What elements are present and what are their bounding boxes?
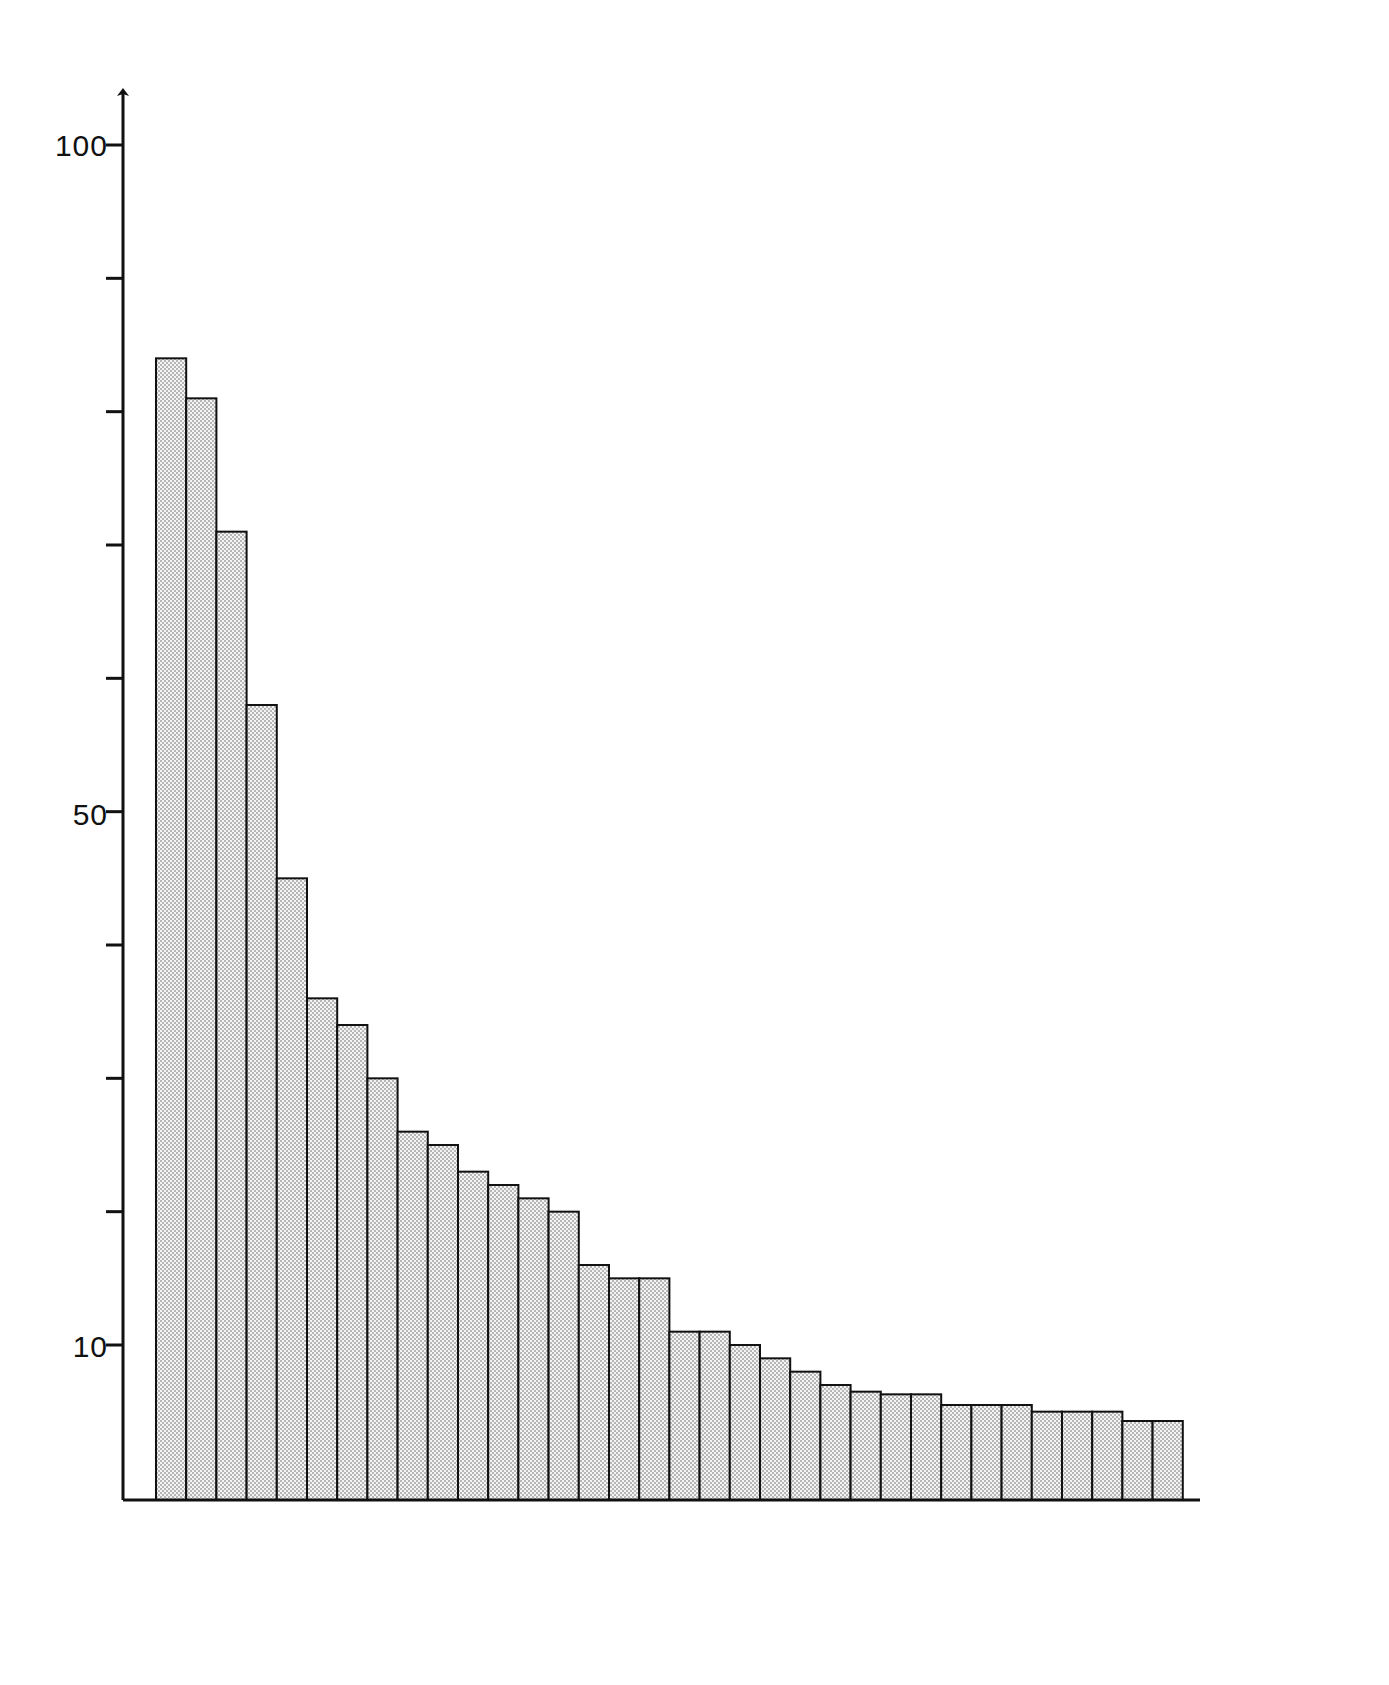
bar: [730, 1345, 760, 1500]
chart-figure: 100 50 10: [0, 0, 1389, 1685]
bar: [579, 1265, 609, 1500]
bar: [1062, 1412, 1092, 1500]
bar: [488, 1185, 518, 1500]
bar: [820, 1385, 850, 1500]
bar: [1092, 1412, 1122, 1500]
bar: [911, 1394, 941, 1500]
plot-area: [156, 358, 1183, 1500]
bar: [1153, 1421, 1183, 1500]
bar: [428, 1145, 458, 1500]
y-tick-label-10: 10: [73, 1330, 108, 1363]
bar: [216, 532, 246, 1500]
bar: [609, 1278, 639, 1500]
bar: [1032, 1412, 1062, 1500]
bar: [367, 1078, 397, 1500]
bars-group: [156, 358, 1183, 1500]
bar: [458, 1172, 488, 1500]
bar: [247, 705, 277, 1500]
bar: [700, 1332, 730, 1500]
bar: [186, 398, 216, 1500]
y-axis: [106, 92, 123, 1500]
y-tick-marks: [106, 145, 123, 1345]
bar: [1002, 1405, 1032, 1500]
bar: [277, 878, 307, 1500]
bar: [881, 1394, 911, 1500]
bar: [518, 1198, 548, 1500]
bar: [760, 1358, 790, 1500]
y-tick-label-50: 50: [73, 798, 108, 831]
bar: [941, 1405, 971, 1500]
bar: [639, 1278, 669, 1500]
bar: [337, 1025, 367, 1500]
bar-chart-svg: 100 50 10: [0, 0, 1389, 1685]
bar: [669, 1332, 699, 1500]
y-axis-tick-labels: 100 50 10: [55, 129, 108, 1363]
bar: [398, 1132, 428, 1500]
bar: [851, 1392, 881, 1500]
bar: [790, 1372, 820, 1500]
bar: [307, 998, 337, 1500]
bar: [1122, 1421, 1152, 1500]
bar: [971, 1405, 1001, 1500]
bar: [549, 1212, 579, 1500]
y-tick-label-100: 100: [55, 129, 108, 162]
bar: [156, 358, 186, 1500]
